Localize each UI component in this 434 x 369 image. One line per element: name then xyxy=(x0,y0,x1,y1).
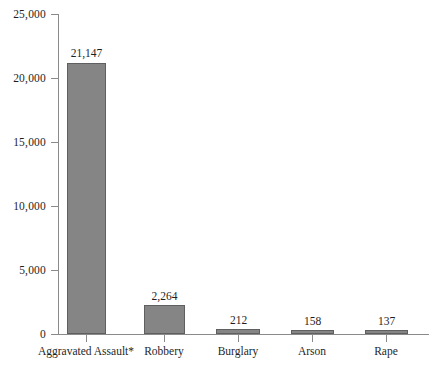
y-axis-tick xyxy=(51,14,59,15)
bar-value-label: 137 xyxy=(356,316,417,328)
y-axis-tick xyxy=(51,142,59,143)
x-axis-category-label-arson: Arson xyxy=(272,345,352,358)
x-axis-tick xyxy=(164,335,165,342)
x-axis-category-label-robbery: Robbery xyxy=(124,345,204,358)
x-axis-category-label-burglary: Burglary xyxy=(198,345,278,358)
x-axis-tick xyxy=(312,335,313,342)
y-axis-tick xyxy=(51,78,59,79)
y-axis-line xyxy=(58,14,59,335)
x-axis-tick xyxy=(238,335,239,342)
x-axis-line xyxy=(58,334,429,335)
x-axis-tick xyxy=(86,335,87,342)
y-axis-tick xyxy=(51,270,59,271)
y-axis-tick-label: 10,000 xyxy=(0,201,46,213)
y-axis-tick xyxy=(51,334,59,335)
bar-value-label: 21,147 xyxy=(56,48,117,60)
bar-chart: 25,000 20,000 15,000 10,000 5,000 0 21,1… xyxy=(0,0,434,369)
bar-value-label: 158 xyxy=(282,316,343,328)
y-axis-tick-label: 20,000 xyxy=(0,73,46,85)
x-axis-tick xyxy=(386,335,387,342)
y-axis-tick-label: 25,000 xyxy=(0,9,46,21)
y-axis-tick xyxy=(51,206,59,207)
y-axis-tick-label: 0 xyxy=(0,329,46,341)
x-axis-category-label-rape: Rape xyxy=(346,345,426,358)
bar-burglary xyxy=(216,329,260,334)
bar-rape xyxy=(365,330,408,334)
y-axis-tick-label: 15,000 xyxy=(0,137,46,149)
bar-arson xyxy=(291,330,334,334)
bar-robbery xyxy=(144,305,185,334)
bar-value-label: 212 xyxy=(208,315,269,327)
bar-value-label: 2,264 xyxy=(134,291,195,303)
bar-aggravated-assault xyxy=(67,63,106,334)
y-axis-tick-label: 5,000 xyxy=(0,265,46,277)
